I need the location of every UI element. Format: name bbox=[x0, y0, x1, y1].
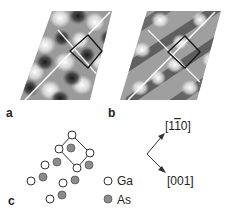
panel-label-a: a bbox=[6, 106, 13, 120]
legend: Ga As bbox=[104, 174, 133, 207]
ga-legend-icon bbox=[104, 177, 112, 185]
atomic-model bbox=[27, 131, 94, 203]
arrow-down-icon bbox=[158, 166, 166, 173]
direction-label-1-10: [110] bbox=[165, 119, 191, 133]
ga-atom bbox=[86, 149, 94, 157]
panel-a-image bbox=[15, 5, 120, 106]
direction-label-001: [001] bbox=[167, 174, 194, 188]
as-atom bbox=[67, 144, 75, 152]
as-atom bbox=[53, 158, 61, 166]
ga-atom bbox=[59, 179, 67, 187]
ga-atom bbox=[73, 164, 81, 172]
crystal-directions bbox=[147, 133, 166, 173]
panel-b-image bbox=[115, 0, 229, 105]
as-atoms bbox=[39, 144, 93, 199]
as-atom bbox=[58, 191, 66, 199]
as-legend-icon bbox=[104, 195, 112, 203]
as-atom bbox=[85, 161, 93, 169]
ga-atom bbox=[68, 131, 76, 139]
panel-label-c: c bbox=[8, 194, 15, 208]
ga-legend-label: Ga bbox=[117, 174, 133, 188]
as-atom bbox=[71, 176, 79, 184]
ga-atom bbox=[46, 195, 54, 203]
figure: a b c Ga As bbox=[0, 0, 229, 216]
as-legend-label: As bbox=[117, 193, 131, 207]
ga-atom bbox=[55, 145, 63, 153]
ga-atom bbox=[27, 177, 35, 185]
ga-atom bbox=[41, 161, 49, 169]
as-atom bbox=[39, 173, 47, 181]
panel-label-b: b bbox=[108, 106, 115, 120]
